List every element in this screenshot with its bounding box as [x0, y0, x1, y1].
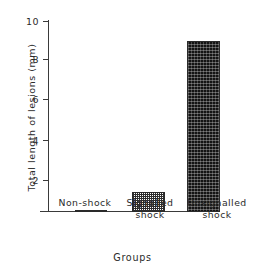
y-tick-label: 6 — [33, 94, 39, 105]
x-category-label-signalled-shock: Signalled shock — [118, 197, 182, 220]
bar-chart-figure: Total length of lesions (mm) 10 8 6 4 2 — [0, 0, 265, 278]
x-axis-title: Groups — [0, 252, 265, 263]
y-tick-mark — [43, 21, 49, 22]
y-tick-label: 10 — [26, 16, 39, 27]
y-axis-line — [48, 20, 49, 212]
category-line: shock — [118, 209, 182, 221]
category-line: shock — [178, 209, 256, 221]
plot-area: 10 8 6 4 2 — [48, 20, 220, 212]
category-line: Signalled — [118, 197, 182, 209]
y-tick-mark — [43, 180, 49, 181]
y-tick-label: 8 — [33, 54, 39, 65]
y-tick-label: 4 — [33, 135, 39, 146]
x-category-label-unsignalled-shock: Unsignalled shock — [178, 197, 256, 220]
category-line: Non-shock — [47, 197, 123, 209]
category-line: Unsignalled — [178, 197, 256, 209]
bar-unsignalled-shock — [187, 41, 220, 212]
x-category-label-non-shock: Non-shock — [47, 197, 123, 209]
y-tick-mark — [43, 59, 49, 60]
bar-non-shock — [75, 210, 107, 212]
y-tick-label: 2 — [33, 175, 39, 186]
y-tick-mark — [43, 99, 49, 100]
y-tick-mark — [43, 140, 49, 141]
